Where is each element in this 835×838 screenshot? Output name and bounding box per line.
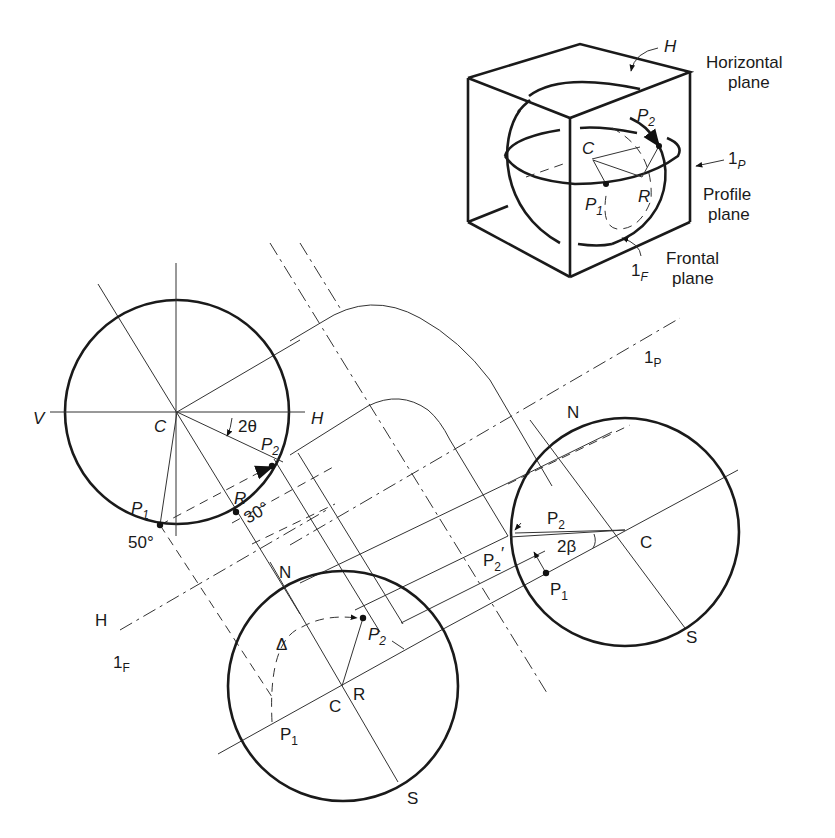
left-radial-upper xyxy=(177,340,300,412)
right-p1-point xyxy=(543,570,549,576)
bottom-axis-ext xyxy=(218,634,434,754)
inset-p1-label: P1 xyxy=(585,195,603,218)
sphere-top-arc xyxy=(529,82,640,96)
fold-1f-label: 1F xyxy=(113,653,130,675)
right-view: N S C P2 P2′ 2β P1 1P xyxy=(483,348,739,647)
bottom-circle xyxy=(228,571,458,801)
p2-tick xyxy=(392,641,404,649)
two-beta-arc xyxy=(593,534,595,548)
construction-lines xyxy=(98,243,738,754)
equator-back-right xyxy=(580,128,637,133)
left-r-label: R xyxy=(234,489,246,508)
equator-back-left xyxy=(505,130,560,156)
left-p1-point xyxy=(157,522,163,528)
bottom-c-label: C xyxy=(329,697,341,716)
two-beta-label: 2β xyxy=(557,537,576,556)
inset-c-label: C xyxy=(582,139,595,158)
bottom-r-label: R xyxy=(353,685,365,704)
p1-up-arrow xyxy=(534,552,546,573)
fold-1p-label: 1P xyxy=(644,348,661,370)
bottom-ns-axis xyxy=(270,562,398,782)
right-p1-label: P1 xyxy=(550,580,568,603)
right-n-label: N xyxy=(567,403,579,422)
two-theta-arc xyxy=(227,418,232,436)
sphere-bottom-arc xyxy=(578,244,612,246)
inset-cube: C P1 P2 R H Horizontal plane 1P Profile … xyxy=(468,37,783,288)
bottom-n-label: N xyxy=(279,563,291,582)
inset-1f-label: 1F xyxy=(631,261,648,284)
p2-point xyxy=(656,143,662,149)
profile-plane-label-1: Profile xyxy=(703,185,751,204)
bottom-view: N S C R Δ P2 P1 H 1F xyxy=(95,562,458,808)
bottom-p2-label: P2 xyxy=(368,625,386,648)
parallel-line-2 xyxy=(355,536,508,610)
fold-line-1p xyxy=(290,318,680,545)
two-theta-label: 2θ xyxy=(238,417,257,436)
delta-label: Δ xyxy=(276,635,287,654)
parallel-line-3 xyxy=(401,551,545,623)
fold-line-1 xyxy=(270,243,547,693)
left-p2-point xyxy=(269,463,275,469)
left-c-label: C xyxy=(154,417,167,436)
horizontal-plane-label-1: Horizontal xyxy=(706,53,783,72)
right-p2-prime-label: P2′ xyxy=(483,544,504,574)
projector-p2-2 xyxy=(298,453,403,624)
sphere-rotation-diagram: C P1 P2 R H Horizontal plane 1P Profile … xyxy=(0,0,835,838)
v-label: V xyxy=(33,409,46,428)
inset-h-label: H xyxy=(664,37,677,56)
left-r-point xyxy=(233,509,239,515)
left-p2-label: P2 xyxy=(261,435,279,458)
parallel-line-1 xyxy=(300,483,508,583)
bottom-h-label: H xyxy=(95,611,107,630)
bend-upper xyxy=(290,305,552,486)
right-p2-label: P2 xyxy=(547,509,565,532)
frontal-plane-label-2: plane xyxy=(672,269,714,288)
cube-back-bottom-stub xyxy=(468,206,508,222)
p1-point xyxy=(603,181,609,187)
one-p-pointer-arrow xyxy=(696,160,724,166)
right-c-label: C xyxy=(640,533,652,552)
bottom-s-label: S xyxy=(407,789,418,808)
c-to-p2-bottom xyxy=(342,618,363,686)
c-to-p2-line xyxy=(592,147,640,159)
cube-bottom-left-edge xyxy=(468,222,570,277)
inset-1p-label: 1P xyxy=(728,149,745,172)
p2-down-arrow xyxy=(515,523,521,530)
left-h-label: H xyxy=(311,409,324,428)
c-to-p2-prime xyxy=(510,530,625,537)
axis-hidden xyxy=(526,163,566,177)
angle-50-label: 50° xyxy=(128,533,154,552)
bottom-p2-point xyxy=(360,615,366,621)
left-view: V H C 2θ P2 R P1 30° 50° xyxy=(33,263,324,552)
fold-line-short xyxy=(300,243,340,308)
bottom-p1-label: P1 xyxy=(280,725,298,748)
delta-rotation-arc xyxy=(272,617,357,722)
profile-plane-label-2: plane xyxy=(708,205,750,224)
frontal-plane-label-1: Frontal xyxy=(666,249,719,268)
horizontal-plane-label-2: plane xyxy=(728,73,770,92)
inset-r-label: R xyxy=(638,187,650,206)
inset-p2-label: P2 xyxy=(637,106,655,129)
right-s-label: S xyxy=(686,628,697,647)
